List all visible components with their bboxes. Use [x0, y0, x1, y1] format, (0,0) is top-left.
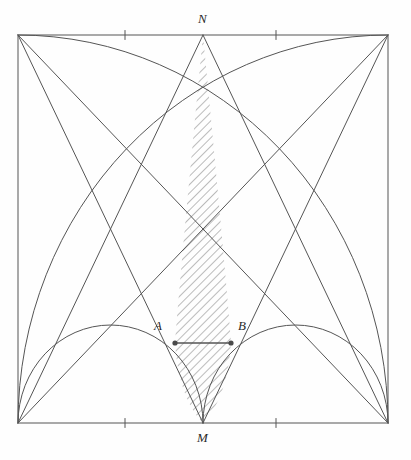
point-label-M: M	[197, 430, 208, 446]
point-label-N: N	[198, 11, 207, 27]
node-A	[172, 340, 177, 345]
geometry-figure: N M A B	[0, 0, 411, 460]
construction-lines	[18, 31, 388, 428]
point-label-A: A	[154, 318, 162, 334]
node-B	[228, 340, 233, 345]
point-label-B: B	[238, 318, 246, 334]
figure-canvas	[0, 0, 411, 460]
